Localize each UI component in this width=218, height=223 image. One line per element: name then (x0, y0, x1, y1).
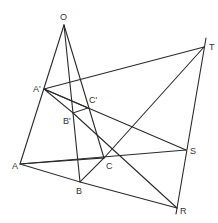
label-o: O (60, 12, 67, 22)
axis-line-t-s-r (176, 38, 206, 214)
desargues-diagram: O A' B' C' A B C T S R (0, 0, 218, 223)
label-c-prime: C' (89, 95, 97, 105)
label-a: A (12, 161, 18, 171)
ray-o-c (64, 25, 104, 158)
triangle-abc (20, 158, 104, 182)
line-a-c-s (20, 150, 186, 164)
triangle-a-prime-b-prime-c-prime (44, 89, 88, 113)
label-b: B (76, 186, 82, 196)
label-t: T (209, 42, 215, 52)
label-c: C (106, 161, 113, 171)
label-a-prime: A' (33, 84, 41, 94)
line-a-c-t (104, 47, 204, 158)
label-r: R (180, 206, 187, 216)
label-s: S (190, 146, 196, 156)
label-b-prime: B' (63, 116, 71, 126)
